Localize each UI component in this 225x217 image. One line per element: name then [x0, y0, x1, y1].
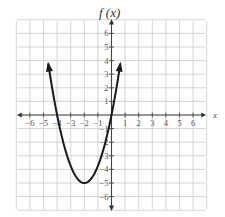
y-axis-title: f (x)	[99, 5, 120, 20]
y-tick-label: 6	[104, 28, 108, 38]
y-tick-label: 1	[104, 96, 108, 106]
x-tick-label: −2	[80, 118, 89, 128]
x-tick-label: 5	[177, 118, 181, 128]
x-axis-right-arrow-icon	[201, 113, 206, 118]
curve-right-arrow-icon	[116, 62, 123, 72]
function-graph: −6−5−4−3−2−1123456−6−5−4−3−2−1123456 f (…	[0, 0, 225, 217]
x-tick-label: 4	[164, 118, 169, 128]
y-tick-label: −5	[99, 178, 108, 188]
y-tick-label: −6	[99, 192, 108, 202]
y-tick-label: 3	[104, 69, 108, 79]
x-tick-label: −3	[66, 118, 75, 128]
x-tick-label: 2	[137, 118, 141, 128]
x-axis-title: x	[212, 110, 217, 120]
x-tick-label: 1	[123, 118, 127, 128]
y-tick-label: 5	[104, 42, 108, 52]
y-tick-label: −4	[99, 164, 109, 174]
x-tick-label: 3	[150, 118, 154, 128]
x-axis-left-arrow-icon	[17, 113, 22, 118]
y-tick-label: 2	[104, 83, 108, 93]
x-tick-label: −6	[25, 118, 34, 128]
x-tick-label: 6	[191, 118, 195, 128]
curve-left-arrow-icon	[46, 62, 53, 72]
x-tick-label: −5	[39, 118, 48, 128]
